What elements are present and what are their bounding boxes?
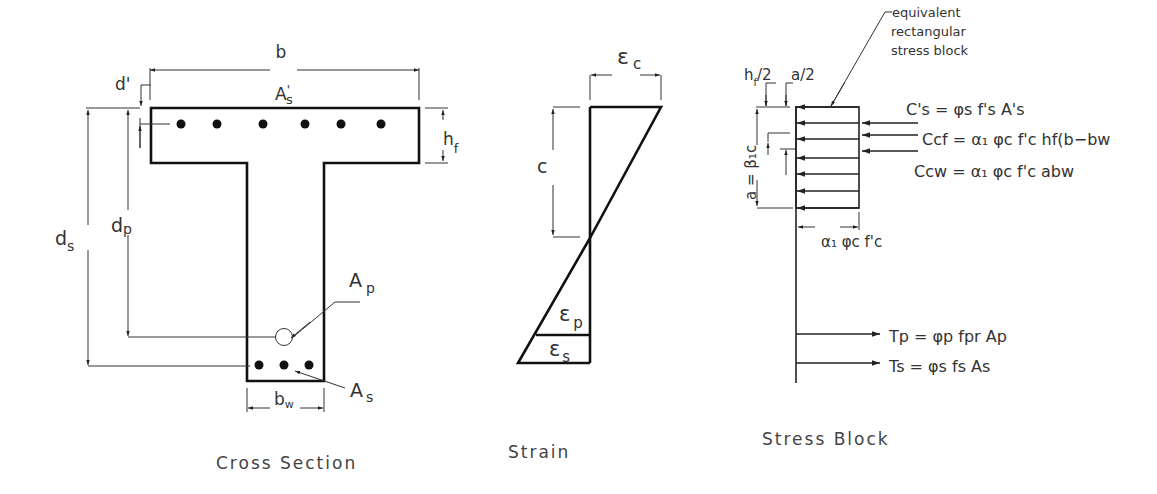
prestressing-tendon [276,329,293,346]
t-beam-outline [151,108,419,381]
label-As-prime: A's [275,83,293,107]
label-As: As [350,379,373,405]
label-eps-c: εc [617,44,641,73]
label-c: c [537,155,547,177]
label-Ap: Ap [349,269,375,296]
bottom-reinforcement-bars [255,361,314,370]
t-beam-analysis-diagram: b d' A's hf ds dp [0,0,1157,494]
top-reinforcement-bars [177,120,386,129]
equation-Ccf: Ccf = α₁ φc f'c hf(b−bw [922,130,1110,149]
label-dp: dp [111,214,132,237]
equation-Tp: Tp = φp fpr Ap [888,327,1007,346]
caption-strain: Strain [508,442,570,462]
equation-Ccw: Ccw = α₁ φc f'c abw [914,162,1074,181]
stress-block-arrows [797,107,859,208]
cross-section-panel: b d' A's hf ds dp [55,42,459,473]
strain-panel: εc c εp εs Strain [508,44,661,462]
label-d-prime: d' [115,74,130,94]
stress-block-panel: hf/2 a/2 a = β₁c α₁ φc f'c equivalent re… [742,5,1110,449]
label-eps-s: εs [549,337,570,366]
label-b: b [276,42,287,62]
callout-line-1: equivalent [892,5,961,20]
label-a-half: a/2 [791,66,815,84]
caption-cross-section: Cross Section [216,453,357,473]
equation-Cs-prime: C's = φs f's A's [906,100,1025,119]
callout-line-3: stress block [891,43,969,58]
label-bw: bw [274,389,294,411]
label-ds: ds [55,227,74,254]
callout-line-2: rectangular [891,24,967,39]
label-a-beta1-c: a = β₁c [742,145,760,200]
label-hf-half: hf/2 [744,66,772,88]
equation-Ts: Ts = φs fs As [888,357,990,376]
label-eps-p: εp [559,302,583,332]
label-hf: hf [443,129,459,156]
caption-stress-block: Stress Block [762,429,890,449]
label-alpha-phi-fc: α₁ φc f'c [821,233,882,251]
